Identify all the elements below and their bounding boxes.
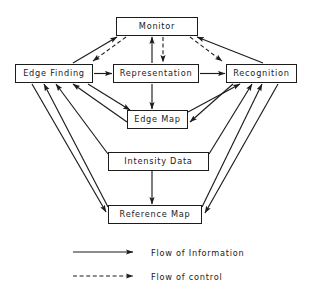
connector-recognition-to-reference-map [205,84,278,213]
connector-edge-map-to-recognition [188,84,240,112]
connector-recognition-to-edge-map [190,84,233,122]
legend-item-flow-of-control: Flow of control [151,272,222,282]
node-monitor-label: Monitor [139,22,175,30]
node-edge-map[interactable]: Edge Map [127,110,188,129]
node-edge-map-label: Edge Map [134,115,181,123]
node-reference-map[interactable]: Reference Map [108,205,202,224]
connector-reference-map-to-recognition [202,84,262,207]
node-monitor[interactable]: Monitor [116,17,198,36]
node-reference-map-label: Reference Map [120,210,191,218]
connector-monitor-to-edge-finding [93,37,126,61]
node-representation-label: Representation [120,69,193,77]
node-recognition-label: Recognition [233,69,289,77]
node-edge-finding-label: Edge Finding [23,69,85,77]
node-edge-finding[interactable]: Edge Finding [15,64,93,83]
node-intensity-data-label: Intensity Data [124,157,192,165]
legend-item-flow-of-information: Flow of Information [151,248,244,258]
connector-edge-finding-to-edge-map [88,84,130,110]
connector-intensity-data-to-edge-finding [56,84,108,154]
legend-flow-of-control-label: Flow of control [151,272,222,282]
node-representation[interactable]: Representation [113,64,199,83]
connector-edge-finding-to-monitor [73,37,117,63]
connector-edge-finding-to-reference-map [32,84,106,212]
system-flow-diagram: Monitor Edge Finding Representation Reco… [0,0,309,294]
legend-flow-of-information-label: Flow of Information [151,248,244,258]
node-recognition[interactable]: Recognition [226,64,297,83]
node-intensity-data[interactable]: Intensity Data [108,152,209,171]
